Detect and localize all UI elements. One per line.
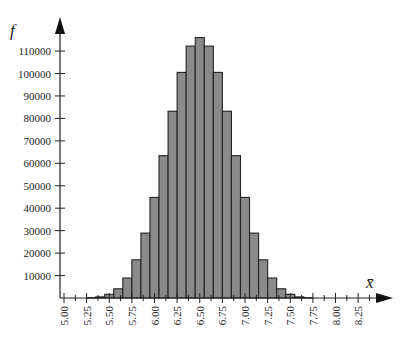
x-tick-label: 5.50 — [103, 306, 115, 326]
histogram-bar — [177, 72, 186, 298]
histogram-bar — [141, 233, 150, 298]
histogram-bar — [277, 289, 286, 298]
y-tick-label: 70000 — [24, 135, 52, 147]
histogram-bars — [87, 38, 313, 298]
y-tick-label: 50000 — [24, 180, 52, 192]
y-axis-arrow-icon — [55, 17, 65, 34]
histogram-bar — [231, 156, 240, 298]
y-tick-label: 100000 — [18, 68, 52, 80]
y-axis-label: f — [10, 21, 17, 40]
histogram-bar — [195, 38, 204, 298]
histogram-bar — [168, 111, 177, 298]
y-axis-ticks: 1000020000300004000050000600007000080000… — [18, 45, 65, 281]
y-tick-label: 110000 — [18, 45, 51, 57]
histogram-bar — [259, 260, 268, 298]
histogram-bar — [213, 72, 222, 298]
x-tick-label: 8.00 — [330, 306, 342, 326]
x-tick-label: 5.25 — [81, 306, 93, 326]
x-tick-label: 6.00 — [149, 306, 161, 326]
x-tick-label: 7.50 — [284, 306, 296, 326]
x-axis-arrow-icon — [376, 293, 393, 303]
x-tick-label: 8.25 — [352, 306, 364, 326]
x-tick-label: 7.00 — [239, 306, 251, 326]
histogram-bar — [222, 111, 231, 298]
y-tick-label: 20000 — [24, 247, 52, 259]
histogram-bar — [204, 46, 213, 298]
x-tick-label: 6.75 — [216, 306, 228, 326]
x-tick-label: 5.75 — [126, 306, 138, 326]
histogram-bar — [240, 197, 249, 298]
histogram-bar — [114, 289, 123, 298]
histogram-bar — [123, 278, 132, 298]
x-tick-label: 7.75 — [307, 306, 319, 326]
histogram-bar — [132, 260, 141, 298]
histogram-bar — [250, 233, 259, 298]
y-tick-label: 60000 — [24, 157, 52, 169]
y-tick-label: 10000 — [24, 270, 52, 282]
y-tick-label: 90000 — [24, 90, 52, 102]
histogram-bar — [150, 197, 159, 298]
histogram-bar — [186, 46, 195, 298]
x-tick-label: 6.50 — [194, 306, 206, 326]
histogram-bar — [159, 156, 168, 298]
x-tick-label: 6.25 — [171, 306, 183, 326]
x-tick-label: 5.00 — [58, 306, 70, 326]
y-tick-label: 80000 — [24, 112, 52, 124]
y-tick-label: 30000 — [24, 225, 52, 237]
histogram-bar — [268, 278, 277, 298]
x-axis-label: x̄ — [365, 273, 374, 292]
y-tick-label: 40000 — [24, 202, 52, 214]
x-tick-label: 7.25 — [262, 306, 274, 326]
histogram-chart: 1000020000300004000050000600007000080000… — [0, 0, 414, 346]
